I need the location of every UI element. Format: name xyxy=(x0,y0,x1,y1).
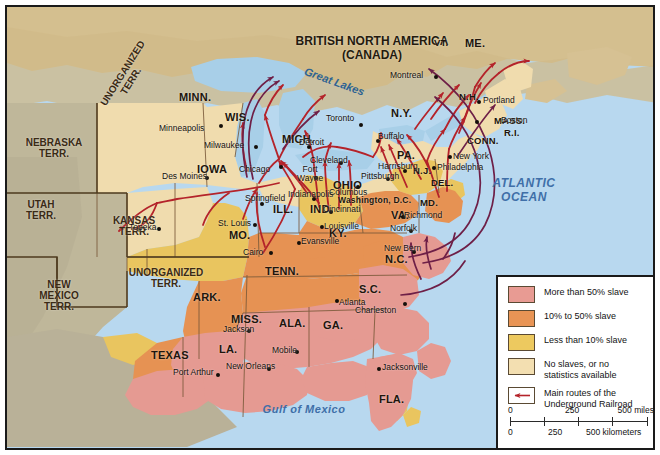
legend-label-no-slaves: No slaves, or no statistics available xyxy=(544,357,617,380)
city-dot-harrisburg xyxy=(403,169,407,173)
city-dot-mobile xyxy=(295,350,299,354)
scale-tick-4 xyxy=(647,417,648,426)
city-dot-des-moines xyxy=(205,176,209,180)
city-dot-jackson xyxy=(247,329,251,333)
city-dot-detroit xyxy=(307,145,311,149)
scale-miles-labels: 0 250 500 miles xyxy=(508,405,654,416)
scale-km-labels: 0 250 500 kilometers xyxy=(508,427,654,438)
scale-km-0: 0 xyxy=(508,427,513,437)
scale-miles-0: 0 xyxy=(508,405,513,415)
city-dot-pittsburgh xyxy=(386,177,390,181)
city-dot-cincinnati xyxy=(329,210,333,214)
city-dot-indianapolis xyxy=(312,197,316,201)
city-dot-portland xyxy=(477,100,481,104)
city-dot-charleston xyxy=(403,302,407,306)
scale-miles-500: 500 miles xyxy=(618,405,654,415)
legend-items: More than 50% slave 10% to 50% slave Les… xyxy=(498,277,655,409)
city-dot-buffalo xyxy=(376,139,380,143)
city-dot-chicago xyxy=(279,165,283,169)
legend-swatch-more-than-50 xyxy=(508,286,535,303)
city-dot-boston xyxy=(475,120,479,124)
landmass-canada xyxy=(7,7,655,115)
map-frame: BRITISH NORTH AMERICA (CANADA) Great Lak… xyxy=(5,5,655,450)
city-dot-new-bern xyxy=(412,250,416,254)
scale-bar: 0 250 500 miles 0 250 500 kilometers xyxy=(508,405,654,438)
city-dot-toronto xyxy=(359,123,363,127)
city-dot-milwaukee xyxy=(254,145,258,149)
city-dot-new-york xyxy=(448,155,452,159)
city-dot-jacksonville xyxy=(377,367,381,371)
legend-item-10-to-50: 10% to 50% slave xyxy=(508,309,655,327)
underground-railroad-arrow-icon xyxy=(509,388,534,403)
city-dot-new-orleans xyxy=(267,367,271,371)
legend-label-more-than-50: More than 50% slave xyxy=(544,285,629,298)
city-dot-fort-wayne xyxy=(314,176,318,180)
legend-item-no-slaves: No slaves, or no statistics available xyxy=(508,357,655,380)
city-dot-atlanta xyxy=(335,299,339,303)
legend-panel: More than 50% slave 10% to 50% slave Les… xyxy=(496,275,655,450)
city-dot-evansville xyxy=(297,241,301,245)
legend-swatch-no-slaves xyxy=(508,358,535,375)
scale-miles-250: 250 xyxy=(565,405,579,415)
scale-tick-1 xyxy=(544,417,545,426)
map-screenshot: BRITISH NORTH AMERICA (CANADA) Great Lak… xyxy=(0,0,660,455)
scale-rule xyxy=(508,417,654,426)
legend-item-less-than-10: Less than 10% slave xyxy=(508,333,655,351)
city-dot-louisville xyxy=(320,225,324,229)
scale-km-250: 250 xyxy=(548,427,562,437)
city-dot-montreal xyxy=(434,75,438,79)
scale-tick-3 xyxy=(612,417,613,426)
city-dot-philadelphia xyxy=(432,166,436,170)
city-dot-norfolk xyxy=(409,229,413,233)
legend-label-10-to-50: 10% to 50% slave xyxy=(544,309,616,322)
legend-swatch-less-than-10 xyxy=(508,334,535,351)
city-dot-topeka xyxy=(157,227,161,231)
legend-item-more-than-50: More than 50% slave xyxy=(508,285,655,303)
legend-swatch-10-to-50 xyxy=(508,310,535,327)
city-dot-columbus xyxy=(356,185,360,189)
city-dot-cleveland xyxy=(339,161,343,165)
city-dot-cairo xyxy=(269,251,273,255)
city-dot-springfield xyxy=(260,202,264,206)
scale-tick-0 xyxy=(510,417,511,426)
legend-label-less-than-10: Less than 10% slave xyxy=(544,333,627,346)
scale-tick-2 xyxy=(578,417,579,426)
scale-km-500: 500 kilometers xyxy=(586,427,641,437)
city-dot-minneapolis xyxy=(219,124,223,128)
city-dot-st-louis xyxy=(253,223,257,227)
legend-swatch-main-routes xyxy=(508,387,535,404)
city-dot-richmond xyxy=(401,215,405,219)
city-dot-port-arthur xyxy=(216,373,220,377)
